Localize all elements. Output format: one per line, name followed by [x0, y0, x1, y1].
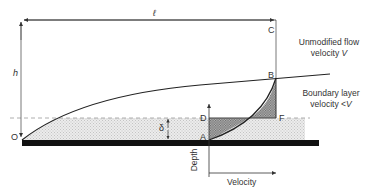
point-a-label: A [200, 132, 206, 142]
unmodified-flow-line2: velocity V [294, 48, 364, 59]
point-d-label: D [200, 113, 207, 123]
boundary-layer-velocity-text: velocity < [310, 99, 346, 109]
delta-label: δ [159, 123, 164, 133]
unmodified-flow-velocity-var: V [342, 48, 348, 58]
length-label: ℓ [153, 8, 156, 18]
boundary-layer-line2: velocity <V [296, 99, 366, 110]
boundary-layer-annotation: Boundary layer velocity <V [296, 88, 366, 110]
origin-label: O [11, 132, 18, 142]
unmodified-flow-annotation: Unmodified flow velocity V [294, 37, 364, 59]
velocity-axis-label: Velocity [227, 177, 256, 187]
boundary-layer-line1: Boundary layer [296, 88, 366, 99]
flat-plate [22, 140, 319, 146]
unmodified-flow-velocity-text: velocity [311, 48, 342, 58]
point-b-label: B [268, 70, 274, 80]
height-label: h [13, 68, 18, 78]
depth-axis-label: Depth [189, 149, 199, 172]
unmodified-flow-line1: Unmodified flow [294, 37, 364, 48]
point-f-label: F [279, 113, 285, 123]
point-c-label: C [268, 25, 275, 35]
boundary-layer-velocity-var: V [346, 99, 352, 109]
